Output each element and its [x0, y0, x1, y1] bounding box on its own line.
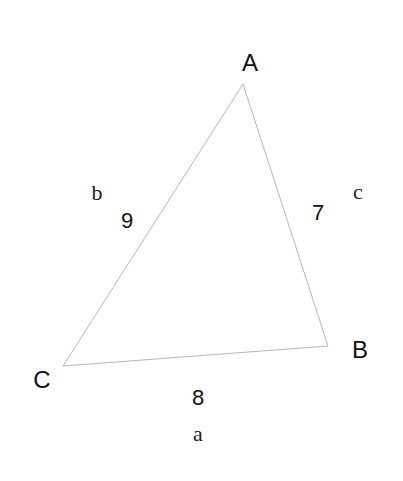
triangle-abc — [63, 84, 328, 366]
vertex-label-a: A — [242, 49, 258, 76]
triangle-diagram: A B C 8 a 9 b 7 c — [0, 0, 403, 481]
side-b-name: b — [92, 180, 103, 205]
side-a-length: 8 — [192, 385, 204, 410]
side-c-length: 7 — [312, 200, 324, 225]
side-c-name: c — [353, 179, 363, 204]
side-b-length: 9 — [121, 208, 133, 233]
vertex-label-c: C — [33, 366, 50, 393]
vertex-label-b: B — [352, 336, 368, 363]
side-a-name: a — [193, 421, 203, 446]
